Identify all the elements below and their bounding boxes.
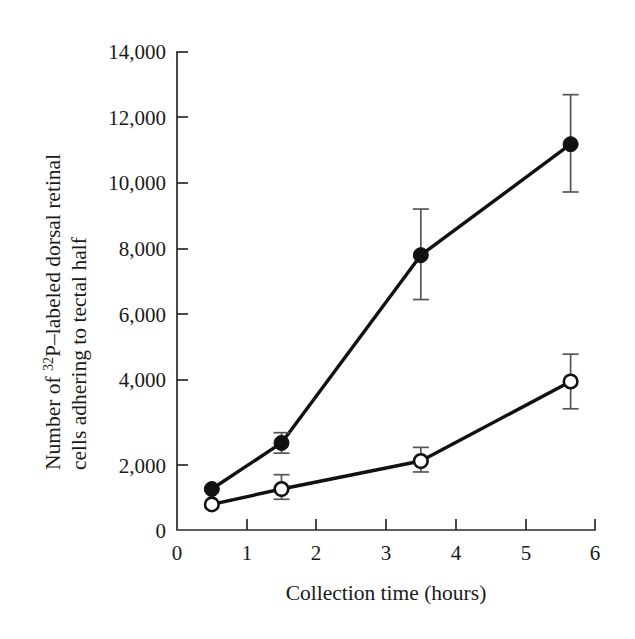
- data-point-open[interactable]: [275, 482, 289, 496]
- series-filled-circles: [204, 95, 578, 497]
- y-axis-title-post: P–labeled dorsal retinal: [41, 154, 65, 357]
- x-axis-title: Collection time (hours): [286, 581, 487, 605]
- x-tick-labels: 0 1 2 3 4 5 6: [172, 541, 601, 565]
- y-axis-title-superscript: 32: [41, 357, 56, 371]
- y-tick-label: 4,000: [119, 368, 166, 392]
- data-point-open[interactable]: [564, 375, 578, 389]
- y-tick-label: 10,000: [108, 171, 166, 195]
- y-tick-marks: [177, 52, 188, 465]
- series-open-circles: [205, 354, 579, 511]
- data-point-open[interactable]: [205, 498, 219, 512]
- data-series-layer: [204, 95, 578, 512]
- y-tick-label: 0: [156, 519, 167, 543]
- y-tick-label: 6,000: [119, 303, 166, 327]
- y-tick-label: 2,000: [119, 454, 166, 478]
- x-tick-label: 1: [242, 541, 253, 565]
- data-point-filled[interactable]: [413, 248, 428, 263]
- series-line-filled-circles: [212, 144, 571, 489]
- x-tick-label: 6: [590, 541, 601, 565]
- y-axis-title: Number of 32P–labeled dorsal retinal cel…: [41, 154, 91, 470]
- y-tick-label: 8,000: [119, 237, 166, 261]
- y-axis-title-line2: cells adhering to tectal half: [67, 236, 91, 470]
- x-tick-label: 0: [172, 541, 183, 565]
- x-tick-marks: [247, 519, 595, 530]
- data-point-open[interactable]: [414, 454, 428, 468]
- y-tick-label: 12,000: [108, 106, 166, 130]
- y-axis-title-line1: Number of 32P–labeled dorsal retinal: [41, 154, 65, 470]
- series-line-open-circles: [212, 382, 571, 505]
- data-point-filled[interactable]: [204, 482, 219, 497]
- x-tick-label: 3: [381, 541, 392, 565]
- x-tick-label: 5: [521, 541, 532, 565]
- x-tick-label: 2: [311, 541, 322, 565]
- x-tick-label: 4: [451, 541, 462, 565]
- data-point-filled[interactable]: [274, 435, 289, 450]
- axis-lines: [177, 52, 595, 530]
- y-axis-title-pre: Number of: [41, 371, 65, 470]
- y-tick-labels: 14,000 12,000 10,000 8,000 6,000 4,000 2…: [108, 40, 166, 543]
- line-chart: Number of 32P–labeled dorsal retinal cel…: [0, 0, 635, 639]
- y-tick-label: 14,000: [108, 40, 166, 64]
- figure-container: Number of 32P–labeled dorsal retinal cel…: [0, 0, 635, 639]
- data-point-filled[interactable]: [563, 137, 578, 152]
